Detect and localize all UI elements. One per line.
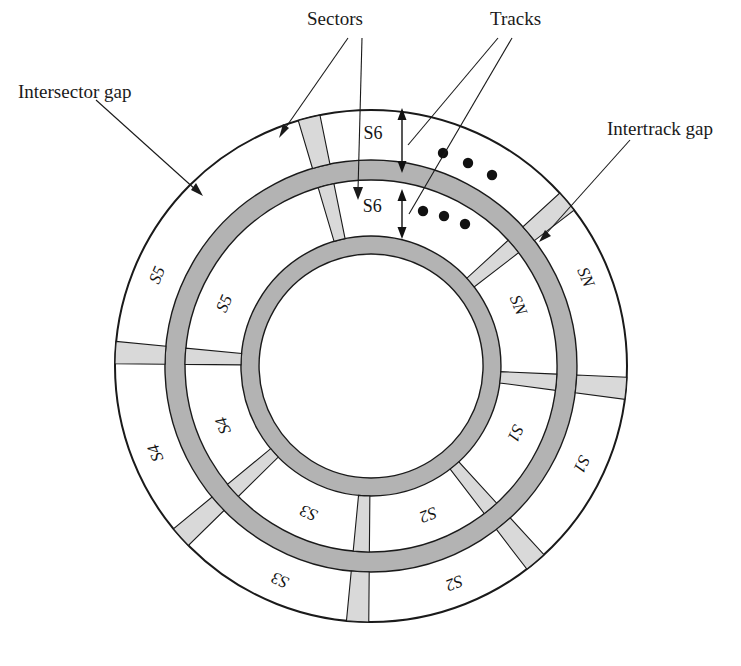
ellipsis-dot xyxy=(460,219,470,229)
sector-label: S6 xyxy=(363,196,382,216)
label-tracks: Tracks xyxy=(490,8,541,29)
disk-platter-diagram: S6SNS1S2S3S4S5 S6SNS1S2S3S4S5 xyxy=(0,0,741,666)
ellipsis-dot xyxy=(487,170,497,180)
figure-canvas: S6SNS1S2S3S4S5 S6SNS1S2S3S4S5 xyxy=(0,0,741,666)
sector-label: S6 xyxy=(364,123,383,143)
intersector-gap-leader xyxy=(96,100,196,190)
label-sectors: Sectors xyxy=(307,8,363,29)
ellipsis-dot xyxy=(418,206,428,216)
label-intersector-gap: Intersector gap xyxy=(18,81,131,102)
label-intertrack-gap: Intertrack gap xyxy=(607,118,713,139)
ellipsis-dot xyxy=(439,211,449,221)
ellipsis-dot xyxy=(463,158,473,168)
intertrack-gap-leader xyxy=(545,140,630,235)
